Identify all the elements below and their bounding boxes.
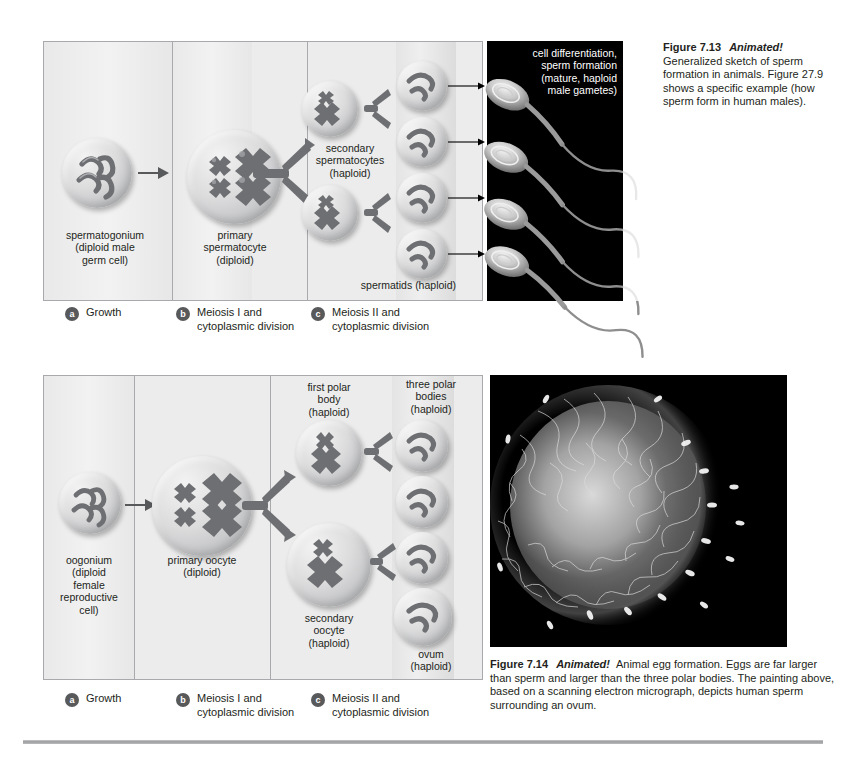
y-connector-meiosis-2-bottom (364, 191, 396, 235)
page-bottom-rule (23, 740, 823, 744)
y-connector-meiosis-2-egg-top (364, 430, 398, 474)
chromosome-rods (397, 117, 447, 167)
cell-ovum (394, 588, 452, 646)
caption-713-body: Generalized sketch of sperm formation in… (663, 55, 823, 108)
cell-spermatid-3 (397, 173, 447, 223)
step-badge-c-egg: c (311, 693, 325, 707)
chromosome-rods (396, 476, 448, 528)
arrow-to-sperm-4 (448, 249, 486, 259)
label-ovum: ovum (haploid) (384, 648, 478, 673)
label-secondary-oocyte: secondary oocyte (haploid) (282, 612, 376, 649)
step-label-b-egg: Meiosis I and cytoplasmic division (197, 692, 294, 719)
chromosome-rods (396, 420, 448, 472)
chromosome-pair-x (287, 523, 371, 607)
step-badge-a-egg: a (65, 693, 79, 707)
cell-spermatogonium (62, 138, 132, 208)
egg-formation-diagram: oogonium (diploid female reproductive ce… (43, 375, 483, 680)
chromosome-cluster-rods (59, 472, 121, 534)
arrow-growth (137, 164, 171, 182)
chromosome-pair-x (302, 81, 358, 137)
step-label-b: Meiosis I and cytoplasmic division (197, 306, 294, 333)
label-oogonium: oogonium (diploid female reproductive ce… (44, 554, 134, 616)
label-three-polar-bodies: three polar bodies (haploid) (384, 378, 478, 415)
step-b-egg: b Meiosis I and cytoplasmic division (176, 692, 294, 719)
ovum-micrograph-panel (490, 375, 787, 647)
arrow-to-sperm-2 (448, 137, 486, 147)
cell-polar-body-3 (396, 532, 448, 584)
chromosome-rods (394, 588, 452, 646)
ovum-sperm-micrograph (490, 375, 787, 647)
cell-primary-oocyte (152, 456, 252, 556)
step-b-sperm: b Meiosis I and cytoplasmic division (176, 306, 294, 333)
chromosome-rods (396, 532, 448, 584)
cell-first-polar-body (296, 420, 362, 486)
column-divider-1 (172, 42, 173, 300)
cell-spermatid-1 (397, 61, 447, 111)
step-badge-b: b (176, 307, 190, 321)
cell-polar-body-1 (396, 420, 448, 472)
caption-714-number: Figure 7.14 (490, 658, 548, 670)
label-primary-spermatocyte: primary spermatocyte (diploid) (174, 229, 296, 266)
caption-figure-714: Figure 7.14 Animated!Animal egg formatio… (490, 658, 838, 712)
label-spermatids: spermatids (haploid) (274, 279, 456, 291)
label-first-polar-body: first polar body (haploid) (282, 381, 376, 418)
label-cell-differentiation: cell differentiation, sperm formation (m… (495, 47, 617, 97)
cell-spermatid-4 (397, 229, 447, 279)
caption-714-animated: Animated! (556, 658, 610, 670)
sperm-formation-diagram: spermatogonium (diploid male germ cell) … (43, 41, 483, 301)
cell-secondary-oocyte (287, 523, 371, 607)
chromosome-pair-x (302, 185, 358, 241)
step-badge-c: c (311, 307, 325, 321)
caption-figure-713: Figure 7.13 Animated! Generalized sketch… (663, 41, 838, 109)
cell-secondary-spermatocyte-bottom (302, 185, 358, 241)
caption-713-number: Figure 7.13 (663, 41, 721, 53)
cell-spermatid-2 (397, 117, 447, 167)
chromosome-cluster-x-shapes (152, 456, 252, 556)
step-c-egg: c Meiosis II and cytoplasmic division (311, 692, 429, 719)
chromosome-pair-x (296, 420, 362, 486)
caption-713-animated: Animated! (729, 41, 783, 53)
sperm-photo-panel: cell differentiation, sperm formation (m… (487, 41, 623, 301)
chromosome-rods (397, 61, 447, 111)
step-captions-sperm: a Growth b Meiosis I and cytoplasmic div… (43, 306, 483, 340)
step-a-sperm: a Growth (65, 306, 121, 321)
step-label-c-egg: Meiosis II and cytoplasmic division (332, 692, 429, 719)
step-c-sperm: c Meiosis II and cytoplasmic division (311, 306, 429, 333)
cell-polar-body-2 (396, 476, 448, 528)
label-secondary-spermatocytes: secondary spermatocytes (haploid) (302, 142, 398, 179)
step-label-a-egg: Growth (86, 692, 121, 706)
step-label-a: Growth (86, 306, 121, 320)
chromosome-rods (397, 229, 447, 279)
step-badge-a: a (65, 307, 79, 321)
step-a-egg: a Growth (65, 692, 121, 707)
label-primary-oocyte: primary oocyte (diploid) (136, 554, 268, 579)
cell-oogonium (59, 472, 121, 534)
chromosome-rods (397, 173, 447, 223)
arrow-to-sperm-1 (448, 81, 486, 91)
arrow-to-sperm-3 (448, 193, 486, 203)
chromosome-cluster-rods (62, 138, 132, 208)
y-connector-meiosis-2-top (364, 87, 396, 131)
step-badge-b-egg: b (176, 693, 190, 707)
cell-secondary-spermatocyte-top (302, 81, 358, 137)
label-spermatogonium: spermatogonium (diploid male germ cell) (44, 229, 166, 266)
column-divider-1-egg (134, 376, 135, 679)
step-captions-egg: a Growth b Meiosis I and cytoplasmic div… (43, 692, 483, 726)
step-label-c: Meiosis II and cytoplasmic division (332, 306, 429, 333)
